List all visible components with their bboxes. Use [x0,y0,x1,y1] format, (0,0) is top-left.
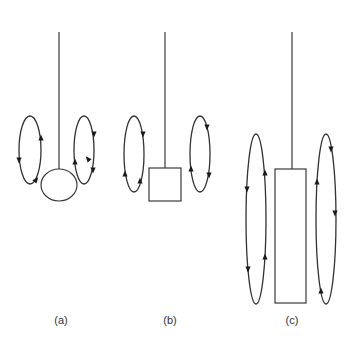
arrowhead-icon [245,267,250,273]
arrowhead-icon [38,135,43,141]
pendulum-bob-ellipse [41,169,77,201]
vortex-loop-left [16,116,43,184]
arrowhead-icon [140,132,145,138]
arrowhead-icon [318,288,323,294]
panel-b [122,32,211,201]
arrowhead-icon [91,132,96,138]
circulation-ellipse [19,116,41,184]
vortex-loop-left [244,134,267,304]
pendulum-vortex-diagram [0,0,352,352]
arrowhead-icon [244,187,249,193]
arrowhead-icon [188,166,193,172]
vortex-loop-right [72,116,96,184]
panel-label-b: (b) [163,314,176,326]
circulation-ellipse [246,134,266,304]
arrowhead-icon [332,211,337,217]
arrowhead-icon [16,158,21,164]
arrowhead-icon [206,173,211,179]
vortex-loop-left [122,116,145,192]
arrowhead-icon [328,147,333,153]
arrowhead-icon [262,254,267,260]
arrowhead-icon [84,155,92,163]
panel-label-c: (c) [286,314,299,326]
panels-layer [16,32,337,304]
arrowhead-icon [314,179,319,185]
pendulum-bob-square [149,168,181,201]
arrowhead-icon [72,159,77,165]
arrowhead-icon [204,125,209,131]
vortex-loop-right [314,134,337,304]
vortex-loop-right [188,116,211,192]
pendulum-bob-tall-rectangle [275,169,306,303]
circulation-ellipse [316,134,336,304]
panel-a [16,32,96,201]
arrowhead-icon [262,170,267,176]
arrowhead-icon [122,171,127,177]
circulation-ellipse [74,116,94,184]
panel-label-a: (a) [54,314,67,326]
panel-c [244,32,337,304]
